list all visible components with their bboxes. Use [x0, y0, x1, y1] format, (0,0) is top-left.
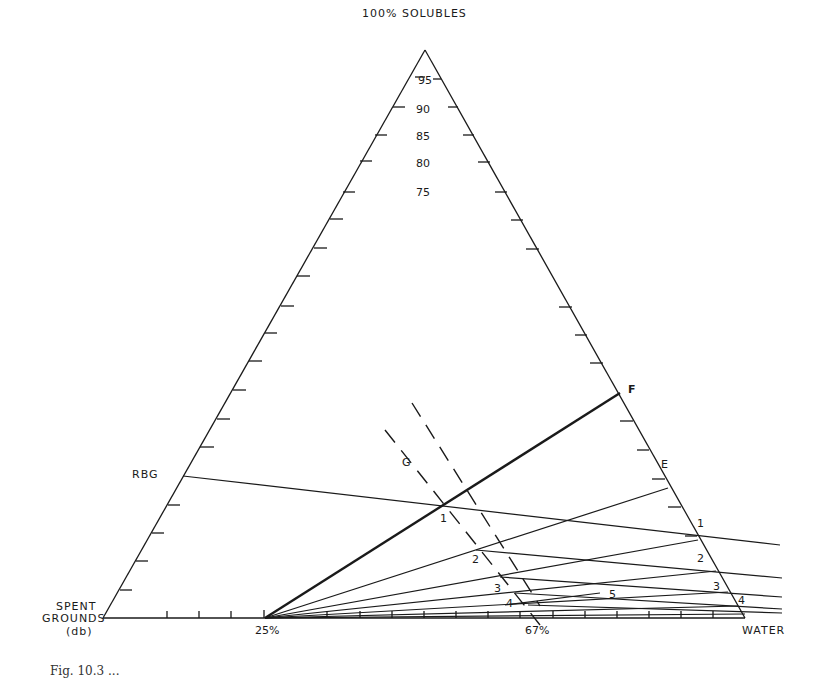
operating-lines — [183, 476, 782, 613]
corner-right-label: WATER — [742, 624, 785, 637]
e-label: E — [661, 458, 668, 471]
base-67-label: 67% — [525, 624, 549, 637]
corner-left-line3: (db) — [66, 625, 93, 638]
scale-85: 85 — [416, 130, 430, 143]
left-edge-ticks — [120, 77, 425, 590]
stage-3-edge: 3 — [713, 580, 720, 593]
stage-3-inner: 3 — [494, 582, 501, 595]
stage-1-inner: 1 — [440, 512, 447, 525]
apex-label: 100% SOLUBLES — [362, 7, 467, 20]
stage-2-inner: 2 — [472, 553, 479, 566]
f-label: F — [628, 383, 636, 396]
stage-4-inner: 4 — [506, 597, 513, 610]
g-label: G — [402, 456, 411, 469]
stage-1-edge: 1 — [697, 517, 704, 530]
rbg-label: RBG — [132, 468, 159, 481]
scale-75: 75 — [416, 186, 430, 199]
scale-90: 90 — [416, 103, 430, 116]
scale-95: 95 — [418, 74, 432, 87]
base-25-label: 25% — [255, 624, 279, 637]
stage-4-edge: 4 — [738, 594, 745, 607]
figure-caption: Fig. 10.3 ... — [50, 664, 119, 678]
scale-80: 80 — [416, 157, 430, 170]
right-edge-ticks — [433, 79, 697, 536]
corner-left-line2: GROUNDS — [42, 612, 106, 625]
stage-2-edge: 2 — [697, 552, 704, 565]
stage-5-inner: 5 — [609, 588, 616, 601]
